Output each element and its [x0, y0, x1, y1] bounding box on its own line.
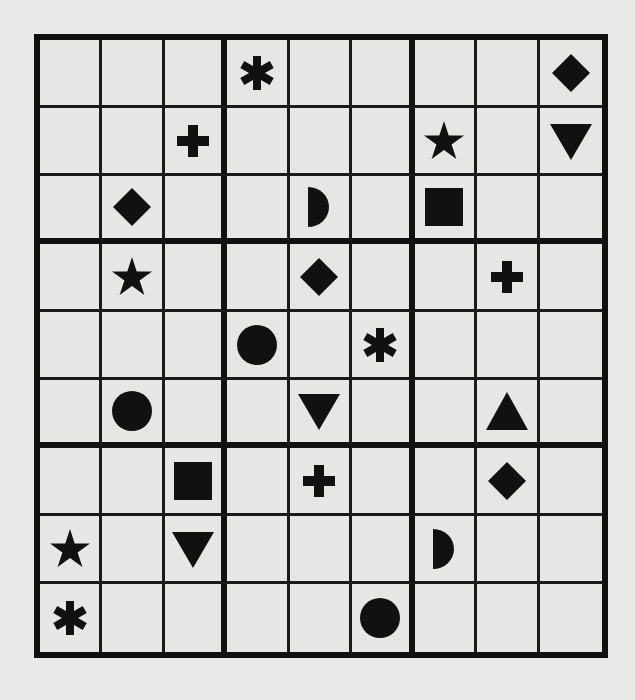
plus-icon: [172, 120, 214, 162]
cell-r4-c9[interactable]: [540, 244, 602, 312]
cell-r3-c8[interactable]: [477, 176, 539, 244]
cell-r8-c7[interactable]: [415, 516, 477, 584]
cell-r5-c1[interactable]: [40, 312, 102, 380]
cell-r7-c7[interactable]: [415, 448, 477, 516]
cell-r2-c7[interactable]: [415, 108, 477, 176]
cell-r8-c2[interactable]: [102, 516, 164, 584]
cell-r8-c1[interactable]: [40, 516, 102, 584]
cell-r5-c2[interactable]: [102, 312, 164, 380]
half-circle-icon: [298, 186, 340, 228]
cell-r3-c4[interactable]: [227, 176, 289, 244]
diamond-icon: [550, 52, 592, 94]
cell-r5-c8[interactable]: [477, 312, 539, 380]
cell-r3-c6[interactable]: [352, 176, 414, 244]
cell-r4-c3[interactable]: [165, 244, 227, 312]
cell-r6-c2[interactable]: [102, 380, 164, 448]
cell-r9-c1[interactable]: [40, 584, 102, 652]
cell-r2-c5[interactable]: [290, 108, 352, 176]
cell-r1-c6[interactable]: [352, 40, 414, 108]
cell-r6-c5[interactable]: [290, 380, 352, 448]
cell-r3-c7[interactable]: [415, 176, 477, 244]
cell-r6-c8[interactable]: [477, 380, 539, 448]
cell-r9-c3[interactable]: [165, 584, 227, 652]
cell-r8-c5[interactable]: [290, 516, 352, 584]
cell-r4-c2[interactable]: [102, 244, 164, 312]
cell-r6-c4[interactable]: [227, 380, 289, 448]
cell-r3-c9[interactable]: [540, 176, 602, 244]
cell-r7-c3[interactable]: [165, 448, 227, 516]
cell-r5-c3[interactable]: [165, 312, 227, 380]
cell-r4-c1[interactable]: [40, 244, 102, 312]
down-triangle-icon: [172, 528, 214, 570]
cell-r2-c4[interactable]: [227, 108, 289, 176]
cell-r1-c1[interactable]: [40, 40, 102, 108]
cell-r2-c1[interactable]: [40, 108, 102, 176]
cell-r8-c9[interactable]: [540, 516, 602, 584]
cell-r1-c8[interactable]: [477, 40, 539, 108]
cell-r1-c7[interactable]: [415, 40, 477, 108]
circle-icon: [236, 324, 278, 366]
cell-r4-c4[interactable]: [227, 244, 289, 312]
cell-r8-c4[interactable]: [227, 516, 289, 584]
circle-icon: [359, 597, 401, 639]
cell-r7-c4[interactable]: [227, 448, 289, 516]
cell-r5-c6[interactable]: [352, 312, 414, 380]
cell-r3-c2[interactable]: [102, 176, 164, 244]
cell-r7-c5[interactable]: [290, 448, 352, 516]
cell-r5-c5[interactable]: [290, 312, 352, 380]
star-icon: [423, 120, 465, 162]
cell-r4-c8[interactable]: [477, 244, 539, 312]
cell-r3-c1[interactable]: [40, 176, 102, 244]
cell-r4-c6[interactable]: [352, 244, 414, 312]
cell-r3-c3[interactable]: [165, 176, 227, 244]
cell-r9-c8[interactable]: [477, 584, 539, 652]
cell-r2-c3[interactable]: [165, 108, 227, 176]
cell-r6-c9[interactable]: [540, 380, 602, 448]
circle-icon: [111, 390, 153, 432]
cell-r1-c3[interactable]: [165, 40, 227, 108]
cell-r7-c9[interactable]: [540, 448, 602, 516]
cell-r2-c9[interactable]: [540, 108, 602, 176]
plus-icon: [298, 460, 340, 502]
cell-r1-c5[interactable]: [290, 40, 352, 108]
cell-r7-c2[interactable]: [102, 448, 164, 516]
cell-r9-c4[interactable]: [227, 584, 289, 652]
asterisk-icon: [359, 324, 401, 366]
star-icon: [49, 528, 91, 570]
cell-r8-c8[interactable]: [477, 516, 539, 584]
up-triangle-icon: [486, 390, 528, 432]
cell-r7-c1[interactable]: [40, 448, 102, 516]
cell-r5-c4[interactable]: [227, 312, 289, 380]
cell-r7-c6[interactable]: [352, 448, 414, 516]
cell-r2-c6[interactable]: [352, 108, 414, 176]
cell-r9-c5[interactable]: [290, 584, 352, 652]
cell-r2-c2[interactable]: [102, 108, 164, 176]
cell-r5-c7[interactable]: [415, 312, 477, 380]
cell-r4-c7[interactable]: [415, 244, 477, 312]
cell-r2-c8[interactable]: [477, 108, 539, 176]
cell-r9-c9[interactable]: [540, 584, 602, 652]
cell-r1-c2[interactable]: [102, 40, 164, 108]
cell-r6-c7[interactable]: [415, 380, 477, 448]
diamond-icon: [486, 460, 528, 502]
cell-r5-c9[interactable]: [540, 312, 602, 380]
cell-r9-c6[interactable]: [352, 584, 414, 652]
cell-r1-c4[interactable]: [227, 40, 289, 108]
sudoku-grid: [40, 40, 602, 652]
cell-r9-c2[interactable]: [102, 584, 164, 652]
square-icon: [423, 186, 465, 228]
cell-r1-c9[interactable]: [540, 40, 602, 108]
asterisk-icon: [49, 597, 91, 639]
cell-r6-c6[interactable]: [352, 380, 414, 448]
down-triangle-icon: [550, 120, 592, 162]
cell-r8-c3[interactable]: [165, 516, 227, 584]
down-triangle-icon: [298, 390, 340, 432]
cell-r4-c5[interactable]: [290, 244, 352, 312]
cell-r6-c3[interactable]: [165, 380, 227, 448]
cell-r8-c6[interactable]: [352, 516, 414, 584]
cell-r6-c1[interactable]: [40, 380, 102, 448]
cell-r3-c5[interactable]: [290, 176, 352, 244]
cell-r7-c8[interactable]: [477, 448, 539, 516]
diamond-icon: [298, 256, 340, 298]
cell-r9-c7[interactable]: [415, 584, 477, 652]
